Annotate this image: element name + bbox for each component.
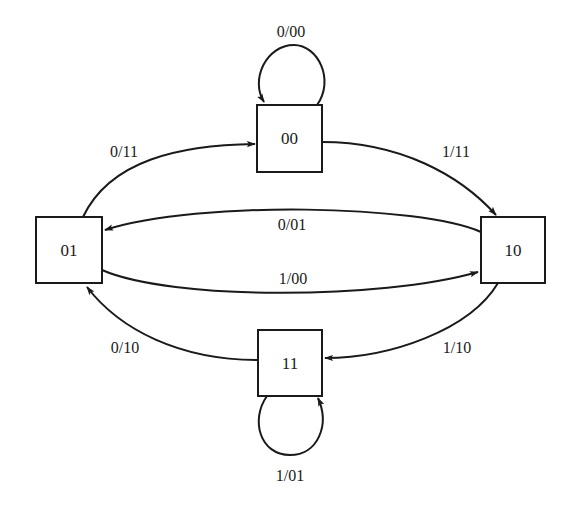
state-label-00: 00 (281, 129, 298, 148)
state-00: 00 (257, 105, 322, 172)
edge-label-10-to-01: 0/01 (278, 216, 306, 233)
edge-label-10-to-11: 1/10 (443, 339, 471, 356)
edge-label-01-to-00: 0/11 (110, 143, 138, 160)
state-diagram: 00 01 10 11 0/00 1/11 0/11 0/01 1/00 1/1… (0, 0, 571, 508)
edge-label-00-to-10: 1/11 (442, 143, 470, 160)
edge-label-01-to-10: 1/00 (279, 270, 307, 287)
edge-label-11-to-11: 1/01 (276, 467, 304, 484)
state-label-10: 10 (505, 241, 522, 260)
state-label-01: 01 (61, 241, 78, 260)
edge-label-00-to-00: 0/00 (277, 23, 305, 40)
state-01: 01 (36, 217, 102, 283)
edge-label-11-to-01: 0/10 (111, 339, 139, 356)
state-label-11: 11 (282, 354, 298, 373)
edge-10-to-11 (325, 283, 498, 358)
state-10: 10 (481, 217, 545, 283)
edge-11-to-11 (259, 396, 323, 455)
edge-00-to-00 (259, 45, 325, 105)
state-11: 11 (258, 330, 322, 396)
edge-01-to-00 (83, 144, 255, 217)
